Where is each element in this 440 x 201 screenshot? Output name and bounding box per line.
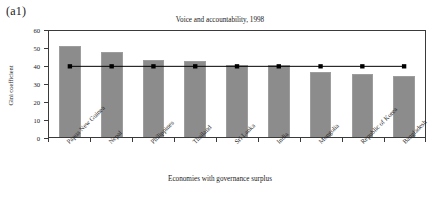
y-tick-label: 50	[33, 45, 40, 52]
bar-slot	[174, 31, 216, 137]
y-tick-label: 60	[33, 27, 40, 34]
y-tick-label: 10	[33, 117, 40, 124]
bar-slot	[258, 31, 300, 137]
y-axis: Gini coefficient 0102030405060	[0, 30, 48, 138]
bar-slot	[91, 31, 133, 137]
y-axis-title: Gini coefficient	[7, 46, 14, 126]
chart-container: Voice and accountability, 1998 Gini coef…	[0, 14, 440, 201]
chart-title: Voice and accountability, 1998	[0, 16, 440, 24]
bar	[184, 61, 206, 137]
bar	[268, 65, 290, 137]
bar	[143, 60, 165, 137]
plot-area	[48, 30, 426, 138]
bar-series	[49, 31, 425, 137]
y-tick-label: 30	[33, 81, 40, 88]
y-tick-label: 20	[33, 99, 40, 106]
y-tick-label: 40	[33, 63, 40, 70]
bar	[226, 65, 248, 137]
x-axis-title: Economies with governance surplus	[0, 175, 440, 183]
bar	[59, 46, 81, 137]
y-tick-label: 0	[37, 135, 40, 142]
bar	[101, 52, 123, 137]
